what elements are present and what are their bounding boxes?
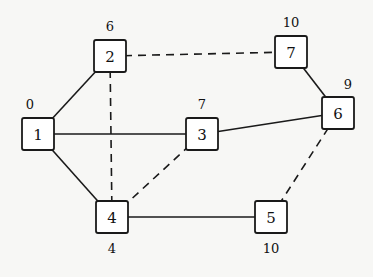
- graph-diagram: 1026374451069710: [0, 0, 373, 277]
- node-weight-label: 0: [26, 97, 34, 112]
- edge-2-7: [110, 52, 291, 56]
- node-id-label: 6: [333, 105, 343, 123]
- node-weight-label: 10: [263, 241, 280, 256]
- node-weight-label: 4: [108, 241, 116, 256]
- node-2: 26: [94, 19, 126, 73]
- node-id-label: 1: [33, 126, 43, 144]
- node-7: 710: [275, 15, 307, 69]
- node-weight-label: 9: [344, 77, 352, 92]
- node-3: 37: [186, 97, 218, 151]
- node-weight-label: 7: [198, 97, 206, 112]
- edge-2-4: [110, 56, 112, 217]
- node-id-label: 4: [107, 209, 117, 227]
- node-id-label: 3: [197, 126, 207, 144]
- node-6: 69: [322, 77, 354, 130]
- node-4: 44: [96, 201, 128, 256]
- node-5: 510: [255, 201, 287, 256]
- node-id-label: 2: [105, 48, 115, 66]
- node-weight-label: 10: [283, 15, 300, 30]
- node-1: 10: [22, 97, 54, 151]
- node-id-label: 5: [266, 209, 276, 227]
- graph-canvas: 1026374451069710: [0, 0, 373, 277]
- node-id-label: 7: [286, 44, 296, 62]
- nodes-layer: 1026374451069710: [22, 15, 354, 256]
- edge-3-6: [202, 113, 338, 134]
- node-weight-label: 6: [106, 19, 114, 34]
